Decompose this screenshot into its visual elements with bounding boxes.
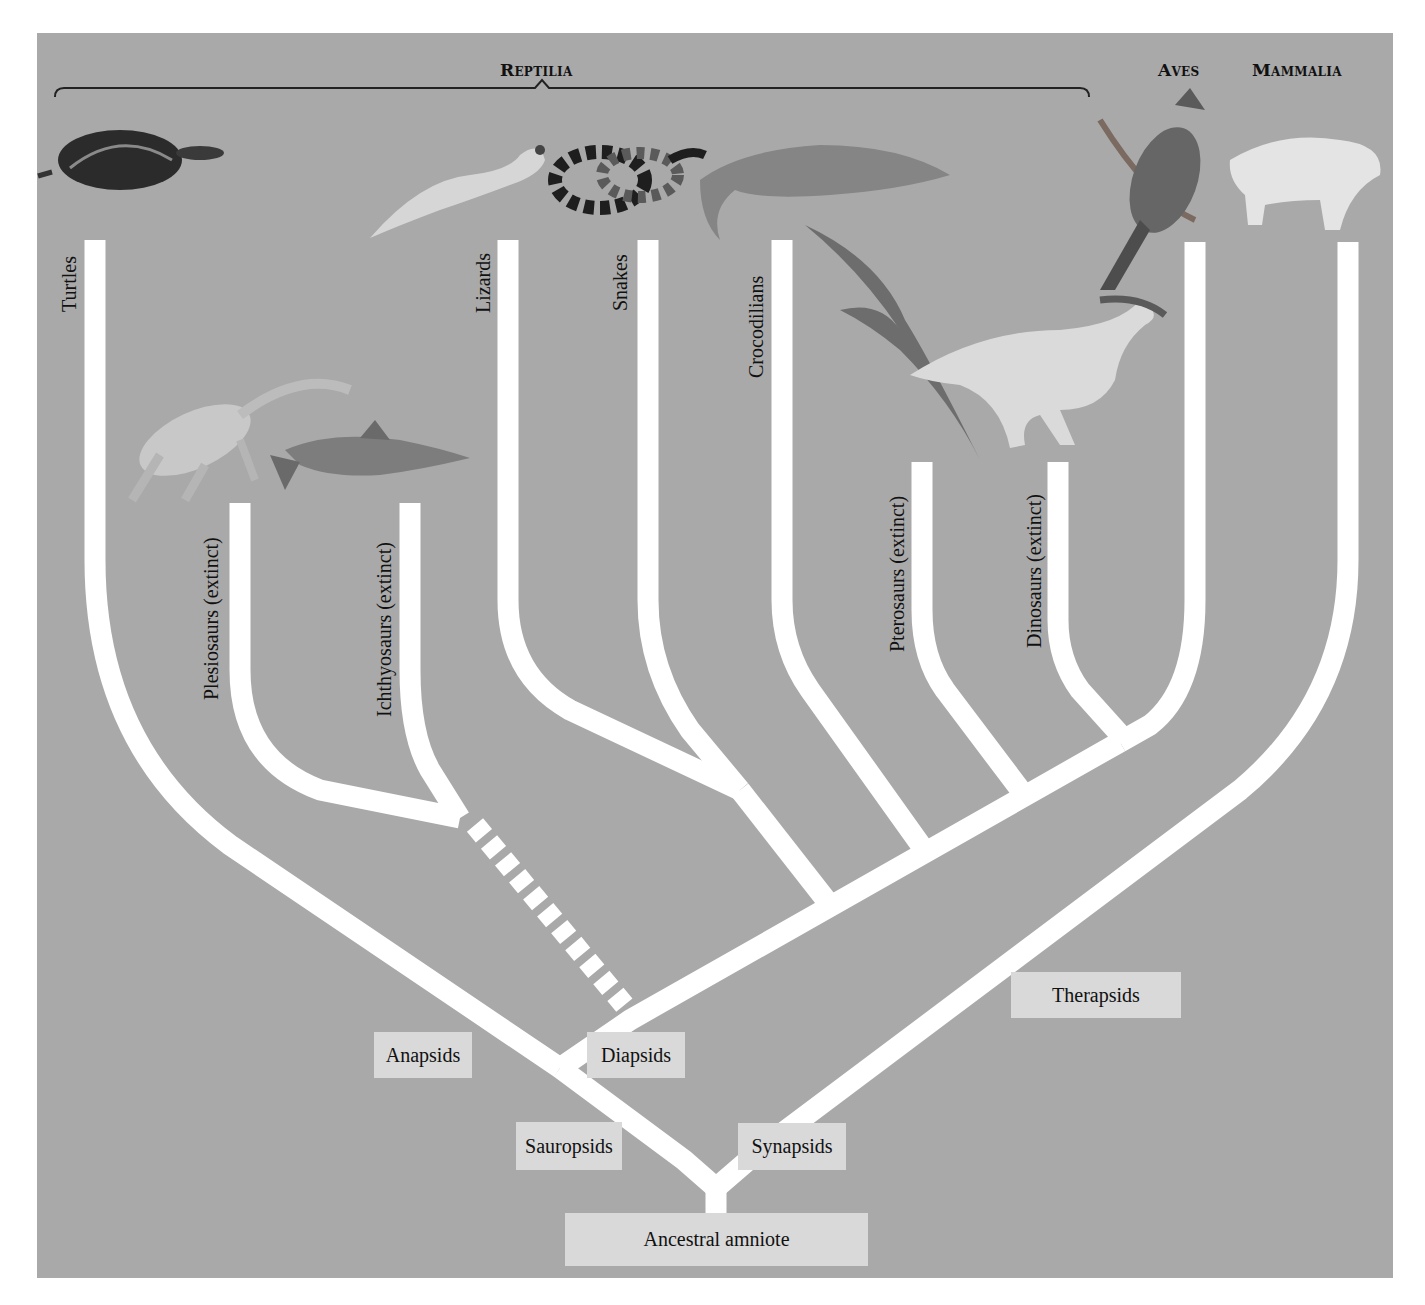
reptilia-bracket xyxy=(55,80,1089,97)
hadrosaur-icon xyxy=(910,299,1165,448)
taxon-label-crocodilians: Crocodilians xyxy=(745,276,768,378)
branch-turtles xyxy=(95,240,560,1068)
taxon-label-dinosaurs: Dinosaurs (extinct) xyxy=(1023,494,1046,648)
coral-snake-icon xyxy=(555,152,705,208)
crocodile-icon xyxy=(700,145,950,240)
group-label-aves: Aves xyxy=(1158,60,1200,80)
group-label-mammalia: Mammalia xyxy=(1252,60,1342,80)
group-label-reptilia: Reptilia xyxy=(500,60,573,80)
ichthyosaur-icon xyxy=(270,420,470,490)
node-sauropsids: Sauropsids xyxy=(516,1122,622,1170)
branch-dashed-uncertain xyxy=(475,825,635,1018)
node-anapsids: Anapsids xyxy=(374,1032,472,1078)
gecko-icon xyxy=(370,145,545,238)
branch-snakes xyxy=(648,240,740,790)
node-diapsids: Diapsids xyxy=(587,1032,685,1078)
bobcat-icon xyxy=(1230,138,1381,231)
branch-pterosaurs xyxy=(922,462,1025,796)
turtle-icon xyxy=(38,130,224,190)
branch-ichthyosaurs xyxy=(410,503,460,818)
branch-lizards xyxy=(508,240,740,790)
taxon-label-snakes: Snakes xyxy=(609,254,632,311)
taxon-label-ichthyosaurs: Ichthyosaurs (extinct) xyxy=(373,542,396,717)
branch-diapsids xyxy=(560,742,1120,1068)
branch-dinosaurs xyxy=(1058,462,1125,740)
taxon-label-turtles: Turtles xyxy=(58,256,81,312)
taxon-label-lizards: Lizards xyxy=(472,253,495,313)
pterosaur-icon xyxy=(805,225,980,460)
node-therapsids: Therapsids xyxy=(1011,972,1181,1018)
node-synapsids: Synapsids xyxy=(738,1123,846,1170)
node-ancestral-amniote: Ancestral amniote xyxy=(565,1213,868,1266)
taxon-label-pterosaurs: Pterosaurs (extinct) xyxy=(886,496,909,652)
taxon-label-plesiosaurs: Plesiosaurs (extinct) xyxy=(200,537,223,700)
branch-squamates xyxy=(740,790,830,905)
